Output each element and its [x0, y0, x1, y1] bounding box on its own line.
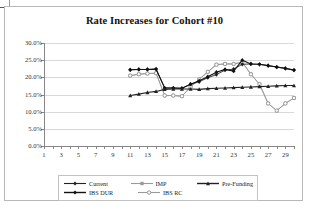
legend-swatch-triangle — [196, 179, 220, 188]
x-tick-label: 13 — [140, 151, 154, 158]
data-point — [275, 65, 279, 69]
data-point — [146, 72, 149, 75]
x-tick-label: 3 — [54, 151, 68, 158]
x-tick-label: 19 — [192, 151, 206, 158]
data-point — [249, 73, 252, 76]
data-point — [249, 62, 253, 66]
data-point — [154, 67, 158, 71]
x-tick-label: 5 — [71, 151, 85, 158]
x-tick-label: 7 — [89, 151, 103, 158]
legend-item-pre-funding[interactable]: Pre-Funding — [196, 179, 253, 188]
y-tick-label: 20.0% — [0, 73, 42, 80]
y-tick-label: 30.0% — [0, 39, 42, 46]
legend-item-current[interactable]: Current — [63, 179, 130, 188]
legend-label: Pre-Funding — [222, 180, 253, 187]
chart-legend: CurrentIMPPre-FundingIBS DURIBS RC — [58, 175, 258, 201]
legend-swatch-square — [130, 179, 154, 188]
y-tick-label: 10.0% — [0, 108, 42, 115]
y-tick-label: 5.0% — [0, 125, 42, 132]
x-tick-label: 23 — [227, 151, 241, 158]
y-tick-label: 15.0% — [0, 91, 42, 98]
data-point — [180, 95, 183, 98]
x-tick-label: 15 — [158, 151, 172, 158]
y-tick-label: 0.0% — [0, 142, 42, 149]
x-tick-label: 25 — [244, 151, 258, 158]
series-layer — [44, 43, 294, 152]
legend-swatch-circle — [137, 188, 161, 197]
data-point — [266, 102, 269, 105]
data-point — [292, 68, 296, 72]
data-point — [258, 62, 262, 66]
legend-label: IBS DUR — [89, 189, 113, 196]
data-point — [215, 63, 218, 66]
legend-swatch-diamond — [63, 179, 87, 188]
x-tick-label: 21 — [209, 151, 223, 158]
data-point — [146, 67, 150, 71]
data-point — [223, 62, 226, 65]
plot-area: 0.0%5.0%10.0%15.0%20.0%25.0%30.0% 135791… — [44, 43, 294, 152]
data-point — [172, 94, 175, 97]
y-tick-label: 25.0% — [0, 56, 42, 63]
chart-frame: Rate Increases for Cohort #10 0.0%5.0%10… — [4, 6, 303, 201]
data-point — [275, 109, 278, 112]
legend-label: IBS RC — [163, 189, 182, 196]
legend-item-imp[interactable]: IMP — [130, 179, 197, 188]
legend-item-ibs-rc[interactable]: IBS RC — [137, 188, 211, 197]
series-ibs-dur — [128, 58, 296, 90]
legend-row: IBS DURIBS RC — [63, 188, 253, 197]
data-point — [232, 62, 235, 65]
x-tick-label: 1 — [37, 151, 51, 158]
x-tick-label: 29 — [278, 151, 292, 158]
data-point — [284, 102, 287, 105]
data-point — [283, 66, 287, 70]
data-point — [137, 73, 140, 76]
legend-row: CurrentIMPPre-Funding — [63, 179, 253, 188]
x-tick-label: 9 — [106, 151, 120, 158]
data-point — [137, 67, 141, 71]
x-tick-label: 17 — [175, 151, 189, 158]
x-tick-label: 11 — [123, 151, 137, 158]
series-pre-funding — [128, 83, 296, 97]
data-point — [206, 70, 209, 73]
data-point — [163, 94, 166, 97]
legend-swatch-diamond — [63, 188, 87, 197]
data-point — [128, 68, 132, 72]
x-tick-label: 27 — [261, 151, 275, 158]
series-line — [130, 64, 294, 88]
legend-label: Current — [89, 180, 108, 187]
data-point — [266, 64, 270, 68]
legend-item-ibs-dur[interactable]: IBS DUR — [63, 188, 137, 197]
chart-title: Rate Increases for Cohort #10 — [5, 15, 304, 26]
x-tick-mark — [294, 146, 295, 149]
legend-label: IMP — [156, 180, 167, 187]
data-point — [129, 74, 132, 77]
data-point — [292, 96, 295, 99]
